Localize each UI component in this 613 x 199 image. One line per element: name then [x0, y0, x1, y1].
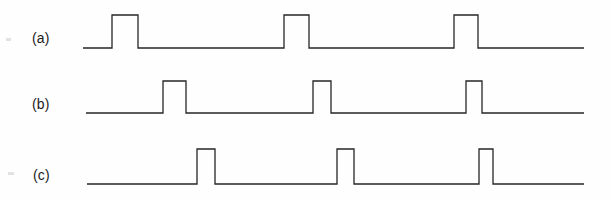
waveform-trace-a: [83, 15, 584, 48]
waveform-trace-c: [87, 149, 584, 184]
timing-diagram-figure: (a) (b) (c): [0, 0, 613, 199]
waveform-trace-b: [86, 81, 584, 113]
waveform-canvas: [0, 0, 613, 199]
